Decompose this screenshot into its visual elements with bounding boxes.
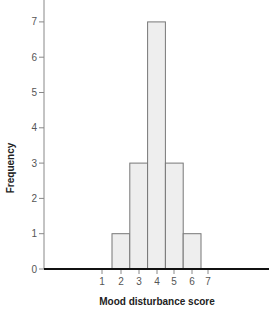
x-tick-label: 5 <box>171 276 177 287</box>
y-tick-label: 2 <box>31 193 37 204</box>
x-tick-label: 3 <box>136 276 142 287</box>
x-tick-label: 2 <box>118 276 124 287</box>
bar-3 <box>130 163 148 269</box>
bar-4 <box>148 22 166 269</box>
bars <box>112 22 201 269</box>
x-tick-label: 7 <box>205 276 211 287</box>
y-tick-label: 5 <box>31 87 37 98</box>
x-axis-title: Mood disturbance score <box>99 296 215 307</box>
y-tick-label: 7 <box>31 16 37 27</box>
x-tick-label: 6 <box>189 276 195 287</box>
y-tick-label: 4 <box>31 122 37 133</box>
y-tick-label: 6 <box>31 52 37 63</box>
y-tick-label: 0 <box>31 264 37 275</box>
bar-2 <box>112 234 130 269</box>
bar-6 <box>183 234 201 269</box>
bar-5 <box>165 163 183 269</box>
y-tick-label: 1 <box>31 228 37 239</box>
x-tick-label: 1 <box>99 276 105 287</box>
y-tick-label: 3 <box>31 158 37 169</box>
y-ticks: 01234567 <box>31 16 44 274</box>
histogram-chart: 01234567 1234567 Mood disturbance score … <box>0 0 271 317</box>
y-axis-title: Frequency <box>5 142 16 193</box>
x-ticks: 1234567 <box>99 270 211 287</box>
x-tick-label: 4 <box>154 276 160 287</box>
